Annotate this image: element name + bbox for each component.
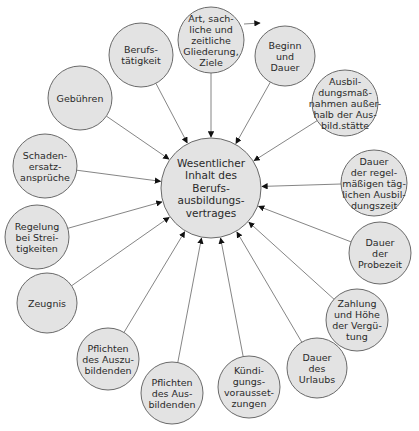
node-ausbildungsmassnahmen: Ausbil-dungsmaß-nahmen außer-halb der Au… bbox=[309, 70, 381, 136]
edge-arrow-kuendigung bbox=[221, 238, 244, 356]
node-label-line: tätigkeit bbox=[121, 55, 161, 66]
node-kuendigung: Kündi-gungs-vorausset-zungen bbox=[218, 356, 280, 418]
node-label-line: ersatz- bbox=[29, 161, 62, 172]
node-label-line: ansprüche bbox=[20, 172, 70, 183]
node-label-line: und Höhe bbox=[334, 309, 380, 320]
nodes-layer: WesentlicherInhalt desBerufs-ausbildungs… bbox=[5, 7, 411, 424]
node-label-line: des Auszu- bbox=[82, 354, 134, 365]
node-label-line: vertrages bbox=[186, 207, 236, 219]
edge-arrow-pflichten-ausbildende bbox=[178, 238, 202, 362]
node-label-line: Berufs- bbox=[124, 44, 158, 55]
node-label-line: Kündi- bbox=[234, 365, 264, 376]
edge-arrow-urlaub bbox=[237, 232, 302, 342]
diagram-canvas: WesentlicherInhalt desBerufs-ausbildungs… bbox=[0, 0, 419, 431]
node-label-line: lichen Ausbil- bbox=[342, 189, 406, 200]
node-zeugnis: Zeugnis bbox=[17, 273, 77, 333]
edge-arrow-gebuehren bbox=[106, 116, 169, 159]
node-label-line: Ausbil- bbox=[329, 76, 361, 87]
node-label-line: der Vergü- bbox=[332, 320, 382, 331]
node-label-line: mäßigen täg- bbox=[342, 178, 406, 189]
node-label-line: Urlaubs bbox=[299, 374, 335, 385]
edge-arrow-probezeit bbox=[259, 206, 351, 242]
node-label-line: und bbox=[276, 51, 294, 62]
node-label-line: halb der Aus- bbox=[313, 109, 376, 120]
node-schadenersatz: Schaden-ersatz-ansprüche bbox=[13, 134, 77, 198]
node-label-line: Zeugnis bbox=[28, 298, 66, 309]
node-label-line: Pflichten bbox=[151, 377, 192, 388]
node-label-line: bildenden bbox=[84, 365, 131, 376]
edge-arrow-pflichten-auszubildende bbox=[124, 232, 185, 333]
node-pflichten-ausbildende: Pflichtendes Aus-bildenden bbox=[141, 362, 203, 424]
node-label-line: liche und bbox=[189, 24, 232, 35]
node-label-line: des Aus- bbox=[152, 388, 193, 399]
node-label-line: bild.stätte bbox=[321, 120, 369, 131]
node-label-line: Ziele bbox=[199, 57, 223, 68]
edge-arrow-ausbildungsmassnahmen bbox=[254, 121, 317, 161]
node-label-line: Dauer bbox=[360, 156, 389, 167]
node-label-line: Probezeit bbox=[358, 259, 402, 270]
node-label-line: Dauer bbox=[303, 352, 332, 363]
node-label-line: bei Strei- bbox=[16, 232, 59, 243]
node-label-line: der regel- bbox=[351, 167, 397, 178]
edge-arrow-streitigkeiten bbox=[68, 202, 162, 229]
node-label-line: gungs- bbox=[233, 376, 265, 387]
node-label-line: Inhalt des bbox=[185, 169, 237, 181]
node-label-line: zeitliche bbox=[191, 35, 231, 46]
node-label-line: bildenden bbox=[148, 399, 195, 410]
node-label-line: Pflichten bbox=[87, 343, 128, 354]
node-label-line: Regelung bbox=[15, 221, 60, 232]
edge-arrow-taegliche-ausbildungszeit bbox=[262, 184, 341, 186]
node-berufstaetigkeit: Berufs-tätigkeit bbox=[109, 23, 173, 87]
node-label-line: Gliederung, bbox=[183, 46, 238, 57]
edge-arrow-berufstaetigkeit bbox=[156, 83, 187, 143]
node-verguetung: Zahlungund Höheder Vergü-tung bbox=[326, 289, 388, 351]
node-label-line: dungszeit bbox=[351, 200, 398, 211]
node-label-line: Gebühren bbox=[57, 93, 104, 104]
node-label-line: Beginn bbox=[268, 40, 301, 51]
node-label-line: ausbildungs- bbox=[178, 194, 245, 206]
stray-arrow bbox=[244, 23, 260, 24]
node-pflichten-auszubildende: Pflichtendes Auszu-bildenden bbox=[77, 328, 139, 390]
node-label-line: Wesentlicher bbox=[177, 157, 246, 169]
node-label-line: Schaden- bbox=[23, 150, 67, 161]
node-label-line: der bbox=[372, 248, 388, 259]
node-urlaub: DauerdesUrlaubs bbox=[287, 338, 347, 398]
central-node: WesentlicherInhalt desBerufs-ausbildungs… bbox=[161, 138, 261, 238]
node-label-line: Berufs- bbox=[192, 182, 230, 194]
node-label-line: nahmen außer- bbox=[309, 98, 381, 109]
edge-arrow-schadenersatz bbox=[77, 170, 161, 181]
node-beginn-dauer: BeginnundDauer bbox=[255, 26, 315, 86]
node-label-line: tigkeiten bbox=[16, 243, 58, 254]
node-label-line: Zahlung bbox=[337, 298, 376, 309]
node-streitigkeiten: Regelungbei Strei-tigkeiten bbox=[5, 205, 69, 269]
node-art-gliederung-ziele: Art, sach-liche undzeitlicheGliederung,Z… bbox=[178, 7, 244, 73]
node-label-line: dungsmaß- bbox=[318, 87, 372, 98]
node-label-line: des bbox=[309, 363, 326, 374]
node-label-line: vorausset- bbox=[224, 387, 274, 398]
node-taegliche-ausbildungszeit: Dauerder regel-mäßigen täg-lichen Ausbil… bbox=[341, 150, 407, 216]
node-gebuehren: Gebühren bbox=[48, 66, 112, 130]
node-label-line: tung bbox=[346, 331, 368, 342]
edge-arrow-zeugnis bbox=[72, 217, 170, 285]
node-label-line: zungen bbox=[232, 398, 267, 409]
node-label-line: Dauer bbox=[366, 237, 395, 248]
node-label-line: Dauer bbox=[271, 62, 300, 73]
node-probezeit: DauerderProbezeit bbox=[349, 222, 411, 284]
edge-arrow-beginn-dauer bbox=[236, 82, 270, 143]
edge-arrow-verguetung bbox=[249, 222, 334, 299]
node-label-line: Art, sach- bbox=[188, 13, 234, 24]
